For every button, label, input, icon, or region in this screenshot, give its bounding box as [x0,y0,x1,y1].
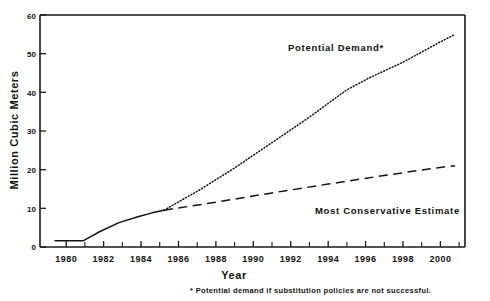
x-tick-label-1984: 1984 [130,254,152,264]
x-tick-label-1990: 1990 [242,254,264,264]
x-tick-label-1998: 1998 [392,254,414,264]
y-tick-label-60: 60 [27,12,36,21]
series-potential-demand [164,34,455,210]
x-tick-label-1992: 1992 [280,254,302,264]
y-axis-title: Million Cubic Meters [8,71,20,190]
y-tick-label-20: 20 [27,166,36,175]
x-tick-label-1986: 1986 [167,254,189,264]
x-tick-label-1982: 1982 [93,254,115,264]
x-tick-label-1994: 1994 [317,254,339,264]
most-conservative-estimate-label: Most Conservative Estimate [315,205,460,216]
x-tick-label-2000: 2000 [429,254,451,264]
line-chart: 0 10 20 30 40 50 60 [0,0,490,301]
y-tick-label-30: 30 [27,127,36,136]
potential-demand-label: Potential Demand* [288,42,384,53]
x-axis-title: Year [221,269,247,281]
x-tick-label-1988: 1988 [205,254,227,264]
x-tick-label-1996: 1996 [355,254,377,264]
y-tick-labels: 0 10 20 30 40 50 60 [27,12,36,253]
y-tick-label-50: 50 [27,50,36,59]
chart-footnote: * Potential demand if substitution polic… [190,286,431,295]
x-tick-label-1980: 1980 [55,254,77,264]
y-tick-label-0: 0 [32,243,37,252]
series-most-conservative-estimate [164,166,455,210]
x-tick-labels: 1980 1982 1984 1986 1988 1990 1992 1994 … [55,254,451,264]
y-tick-label-40: 40 [27,89,36,98]
y-ticks [40,15,46,247]
y-tick-label-10: 10 [27,205,36,214]
chart-page: 0 10 20 30 40 50 60 [0,0,490,301]
series-historical [55,210,164,241]
